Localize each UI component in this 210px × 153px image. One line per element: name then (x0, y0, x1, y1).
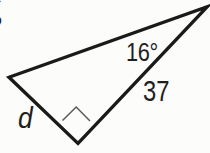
corner-letter: g (0, 0, 2, 25)
right-angle-marker (63, 107, 91, 121)
angle-measure-label: 16° (126, 39, 158, 65)
geometry-figure: 16° 37 d g (0, 0, 210, 153)
hypotenuse-length-label: 37 (143, 77, 169, 106)
side-d-label: d (18, 103, 33, 133)
triangle-outline (9, 7, 207, 144)
